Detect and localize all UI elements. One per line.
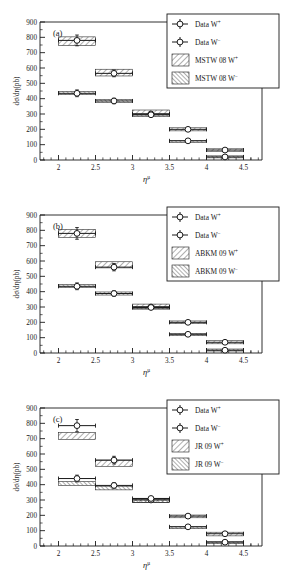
ytick-label: 600 <box>26 451 37 459</box>
ytick-label: 700 <box>26 242 37 250</box>
ytick-label: 900 <box>26 212 37 220</box>
xtick-label: 3.5 <box>165 164 174 172</box>
xtick-label: 3.5 <box>165 550 174 558</box>
panel-a: 010020030040050060070080090022.533.544.5… <box>0 0 282 193</box>
ytick-label: 500 <box>26 273 37 281</box>
ytick-label: 400 <box>26 288 37 296</box>
legend: Data W+Data W−MSTW 08 W+MSTW 08 W− <box>167 14 279 88</box>
legend-label: Data W+ <box>195 405 221 415</box>
plot-area-b: 010020030040050060070080090022.533.544.5… <box>0 193 282 386</box>
data-point <box>170 126 207 132</box>
xtick-label: 4.5 <box>239 550 248 558</box>
ytick-label: 800 <box>26 227 37 235</box>
ytick-label: 400 <box>26 95 37 103</box>
ytick-label: 400 <box>26 481 37 489</box>
legend: Data W+Data W−JR 09 W+JR 09 W− <box>167 400 279 474</box>
x-axis-label: ημ <box>143 367 150 377</box>
ytick-label: 900 <box>26 405 37 413</box>
data-point <box>59 283 96 290</box>
plot-area-c: 010020030040050060070080090022.533.544.5… <box>0 386 282 579</box>
data-point <box>170 319 207 325</box>
ytick-label: 300 <box>26 497 37 505</box>
x-axis-label: ημ <box>143 560 150 570</box>
ytick-label: 800 <box>26 34 37 42</box>
ytick-label: 800 <box>26 420 37 428</box>
ytick-label: 500 <box>26 80 37 88</box>
data-point <box>207 539 244 545</box>
xtick-label: 3 <box>131 357 135 365</box>
ytick-label: 0 <box>33 350 37 358</box>
legend-label: Data W− <box>195 37 221 47</box>
legend-label: Data W− <box>195 423 221 433</box>
theory-band <box>59 433 96 440</box>
data-point <box>170 138 207 144</box>
data-point <box>207 147 244 153</box>
xtick-label: 3 <box>131 550 135 558</box>
data-point <box>207 339 244 345</box>
xtick-label: 2.5 <box>91 164 100 172</box>
xtick-label: 2 <box>57 357 61 365</box>
panel-tag: (a) <box>53 28 63 38</box>
panel-c: 010020030040050060070080090022.533.544.5… <box>0 386 282 579</box>
ytick-label: 600 <box>26 65 37 73</box>
xtick-label: 2.5 <box>91 357 100 365</box>
xtick-label: 3.5 <box>165 357 174 365</box>
ytick-label: 100 <box>26 141 37 149</box>
ytick-label: 700 <box>26 49 37 57</box>
figure-root: 010020030040050060070080090022.533.544.5… <box>0 0 282 580</box>
ytick-label: 600 <box>26 258 37 266</box>
data-point <box>59 475 96 482</box>
y-axis-label: dσ/dη(pb) <box>13 77 21 106</box>
x-axis-label: ημ <box>143 174 150 184</box>
xtick-label: 4.5 <box>239 357 248 365</box>
ytick-label: 900 <box>26 19 37 27</box>
ytick-label: 300 <box>26 304 37 312</box>
data-point <box>170 513 207 519</box>
legend-label: Data W+ <box>195 212 221 222</box>
legend: Data W+Data W−ABKM 09 W+ABKM 09 W− <box>167 207 279 281</box>
ytick-label: 700 <box>26 435 37 443</box>
legend-label: ABKM 09 W+ <box>195 248 238 258</box>
ytick-label: 100 <box>26 334 37 342</box>
y-axis-label: dσ/dη(pb) <box>13 463 21 492</box>
legend-label: JR 09 W+ <box>195 441 224 451</box>
data-point <box>207 154 244 160</box>
xtick-label: 4 <box>205 357 209 365</box>
data-point <box>59 90 96 97</box>
y-axis-label: dσ/dη(pb) <box>13 270 21 299</box>
ytick-label: 200 <box>26 319 37 327</box>
plot-area-a: 010020030040050060070080090022.533.544.5… <box>0 0 282 193</box>
legend-label: Data W− <box>195 230 221 240</box>
panel-tag: (b) <box>53 221 63 231</box>
data-point <box>207 347 244 353</box>
xtick-label: 3 <box>131 164 135 172</box>
xtick-label: 4.5 <box>239 164 248 172</box>
panel-tag: (c) <box>53 414 63 424</box>
xtick-label: 4 <box>205 164 209 172</box>
legend-label: MSTW 08 W+ <box>195 55 238 65</box>
ytick-label: 500 <box>26 466 37 474</box>
legend-label: ABKM 09 W− <box>195 266 238 276</box>
ytick-label: 0 <box>33 543 37 551</box>
xtick-label: 2 <box>57 550 61 558</box>
data-point <box>96 98 133 104</box>
legend-label: Data W+ <box>195 19 221 29</box>
data-point <box>96 291 133 297</box>
ytick-label: 0 <box>33 157 37 165</box>
xtick-label: 2.5 <box>91 550 100 558</box>
legend-label: MSTW 08 W− <box>195 73 238 83</box>
data-point <box>170 331 207 337</box>
panel-b: 010020030040050060070080090022.533.544.5… <box>0 193 282 386</box>
legend-label: JR 09 W− <box>195 459 224 469</box>
data-point <box>59 420 96 432</box>
ytick-label: 100 <box>26 527 37 535</box>
ytick-label: 200 <box>26 126 37 134</box>
xtick-label: 2 <box>57 164 61 172</box>
ytick-label: 200 <box>26 512 37 520</box>
xtick-label: 4 <box>205 550 209 558</box>
ytick-label: 300 <box>26 111 37 119</box>
